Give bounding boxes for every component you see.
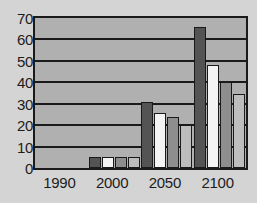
x-tick-label: 2100 (188, 174, 248, 192)
y-tick-label: 40 (0, 75, 33, 90)
bar (89, 157, 101, 168)
y-tick-label: 10 (0, 140, 33, 155)
x-tick-label: 1990 (29, 174, 89, 192)
bar (128, 157, 140, 168)
bar (180, 125, 192, 168)
bar (207, 65, 219, 168)
y-tick-label: 60 (0, 32, 33, 47)
bar-group (141, 18, 192, 168)
bar-group (89, 18, 140, 168)
bar (154, 113, 166, 168)
y-tick-label: 20 (0, 118, 33, 133)
plot-area (33, 16, 248, 170)
bar-group (194, 18, 245, 168)
y-tick-label: 70 (0, 11, 33, 26)
x-axis-tick-labels: 1990200020502100 (33, 174, 248, 198)
x-tick-label: 2050 (135, 174, 195, 192)
bar (102, 157, 114, 168)
bars-layer (35, 18, 246, 168)
bar (220, 82, 232, 168)
y-tick-label: 50 (0, 54, 33, 69)
bar-chart: 010203040506070 1990200020502100 (0, 0, 257, 203)
y-tick-label: 0 (0, 161, 33, 176)
bar (141, 102, 153, 168)
bar (233, 94, 245, 168)
bar-group (36, 18, 87, 168)
y-tick-label: 30 (0, 97, 33, 112)
bar (167, 117, 179, 168)
x-tick-label: 2000 (82, 174, 142, 192)
plot-inner (35, 18, 246, 168)
bar (194, 27, 206, 168)
bar (115, 157, 127, 168)
